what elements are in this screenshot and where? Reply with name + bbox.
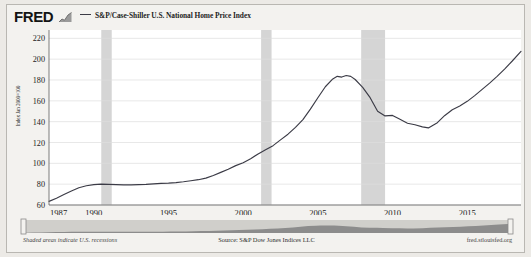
y-axis-label: Index Jan 2000=100: [15, 75, 21, 137]
fred-logo[interactable]: FRED: [14, 9, 53, 24]
y-tick-140: 140: [33, 118, 45, 127]
recession-band-2: [261, 30, 271, 205]
range-selector[interactable]: [7, 218, 526, 235]
y-tick-220: 220: [33, 34, 45, 43]
legend-line-swatch: [80, 14, 91, 15]
x-tick-2015: 2015: [459, 208, 476, 215]
chart-plot-area: Index Jan 2000=100 608010012014016018020…: [7, 25, 526, 215]
y-tick-160: 160: [33, 97, 45, 106]
left-range-handle[interactable]: [21, 219, 26, 234]
line-chart-svg: 6080100120140160180200220 19871990199520…: [7, 25, 526, 215]
y-axis-tick-labels: 6080100120140160180200220: [33, 34, 45, 210]
chart-footer: Shaded areas indicate U.S. recessions So…: [7, 236, 526, 250]
x-axis-tick-labels: 1987199019952000200520102015: [50, 208, 476, 215]
recession-band-1: [101, 30, 111, 205]
legend-label-series-1: S&P/Case-Shiller U.S. National Home Pric…: [95, 11, 251, 20]
x-tick-2000: 2000: [235, 208, 252, 215]
fred-url[interactable]: fred.stlouisfed.org: [467, 236, 512, 243]
y-tick-100: 100: [33, 159, 45, 168]
fred-chart-card: FRED S&P/Case-Shiller U.S. National Home…: [6, 4, 525, 253]
recession-band-3: [361, 30, 385, 205]
x-tick-2010: 2010: [384, 208, 401, 215]
range-selector-svg[interactable]: [7, 218, 526, 235]
y-tick-60: 60: [37, 201, 45, 210]
y-tick-120: 120: [33, 139, 45, 148]
y-tick-180: 180: [33, 76, 45, 85]
x-tick-2005: 2005: [309, 208, 326, 215]
y-tick-80: 80: [37, 180, 45, 189]
source-note: Source: S&P Dow Jones Indices LLC: [7, 236, 526, 243]
bar-chart-icon: [59, 12, 72, 23]
plot-background: [49, 30, 521, 205]
x-tick-1990: 1990: [85, 208, 102, 215]
x-tick-1995: 1995: [160, 208, 177, 215]
y-tick-200: 200: [33, 55, 45, 64]
screenshot-root: FRED S&P/Case-Shiller U.S. National Home…: [0, 0, 531, 257]
chart-legend[interactable]: S&P/Case-Shiller U.S. National Home Pric…: [80, 11, 251, 20]
right-range-handle[interactable]: [508, 219, 513, 234]
x-tick-1987: 1987: [50, 208, 68, 215]
